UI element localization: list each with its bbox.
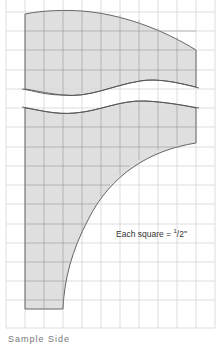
upper-pattern-piece — [25, 10, 196, 95]
figure-caption: Sample Side — [8, 334, 70, 344]
scale-numerator: 1 — [173, 228, 176, 234]
lower-pattern-piece — [25, 101, 196, 309]
scale-unit: " — [184, 229, 187, 239]
scale-label-prefix: Each square = — [116, 229, 173, 239]
scale-label: Each square = 1/2" — [116, 228, 187, 239]
